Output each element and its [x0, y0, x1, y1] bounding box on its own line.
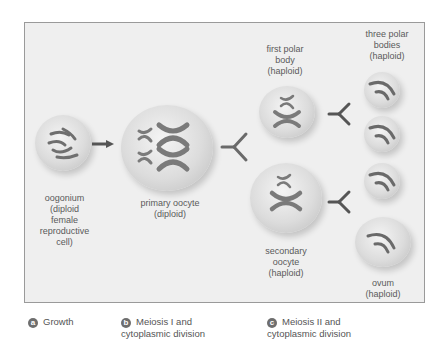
caption-meiosis-2: cMeiosis II and cytoplasmic division: [267, 316, 351, 339]
badge-b: b: [121, 318, 131, 328]
ovum-label: ovum (haploid): [350, 278, 416, 300]
badge-a: a: [28, 318, 38, 328]
secondary-oocyte-label: secondary oocyte (haploid): [250, 246, 322, 279]
badge-c: c: [267, 318, 277, 328]
caption-meiosis-1: bMeiosis I and cytoplasmic division: [121, 316, 205, 339]
caption-growth: aGrowth: [28, 316, 74, 328]
